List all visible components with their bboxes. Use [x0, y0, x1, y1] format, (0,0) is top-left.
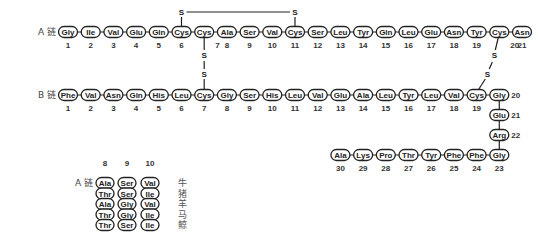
residue-label: Ser: [243, 91, 256, 100]
residue-number: 17: [427, 41, 436, 50]
b-chain-residue-10: His: [263, 90, 282, 101]
species-3-residue-10: Val: [141, 199, 159, 210]
residue-label: Asn: [446, 28, 461, 37]
residue-number: 11: [291, 104, 300, 113]
residue-number: 19: [472, 41, 481, 50]
a-chain-residue-15: Gln: [376, 27, 395, 38]
residue-number: 3: [111, 41, 116, 50]
species-2-residue-8: Thr: [96, 188, 114, 199]
residue-label: Cys: [197, 28, 212, 37]
residue-label: Glu: [129, 28, 142, 37]
a-chain-residue-9: Ser: [240, 27, 259, 38]
b-chain-residue-3: Asn: [104, 90, 123, 101]
residue-number: 18: [449, 104, 458, 113]
residue-number: 8: [103, 159, 108, 168]
species-1-residue-10: Val: [141, 178, 159, 189]
a-chain-residue-20: Cys: [490, 27, 509, 38]
residue-number: 5: [157, 41, 162, 50]
residue-label: Val: [108, 28, 120, 37]
b-chain-residue-19: Cys: [467, 90, 486, 101]
residue-number: 2: [88, 41, 93, 50]
b-chain-residue-12: Val: [308, 90, 327, 101]
residue-label: Arg: [492, 131, 506, 140]
residue-label: Leu: [424, 91, 438, 100]
b-chain-residue-14: Ala: [354, 90, 373, 101]
residue-number: 14: [359, 104, 368, 113]
residue-label: Ser: [121, 221, 134, 230]
residue-label: Glu: [425, 28, 438, 37]
species-table-label: A 链: [75, 177, 93, 188]
b-chain-residue-17: Leu: [422, 90, 441, 101]
residue-number: 6: [179, 104, 184, 113]
residues: GlyIleValGluGlnCysCysAlaSerValCysSerLeuT…: [59, 27, 532, 231]
residue-label: Pro: [379, 151, 392, 160]
a-chain-residue-19: Tyr: [467, 27, 486, 38]
residue-number: 4: [134, 104, 139, 113]
residue-label: Leu: [401, 28, 415, 37]
a-chain-residue-13: Leu: [331, 27, 350, 38]
residue-label: Phe: [61, 91, 76, 100]
species-5-residue-10: Ile: [141, 220, 159, 231]
residue-number: 3: [111, 104, 116, 113]
residue-number: 26: [427, 164, 436, 173]
species-4-residue-8: Thr: [96, 209, 114, 220]
residue-number: 21: [511, 111, 520, 120]
residue-number: 19: [472, 104, 481, 113]
residue-label: His: [266, 91, 279, 100]
residue-label: Ser: [121, 190, 134, 199]
residue-number: 7: [215, 41, 220, 50]
residue-label: Ile: [146, 221, 155, 230]
residue-label: Gly: [121, 200, 134, 209]
b-chain-residue-16: Tyr: [399, 90, 418, 101]
species-5-residue-8: Thr: [96, 220, 114, 231]
residue-number: 9: [125, 159, 130, 168]
residue-number: 13: [336, 41, 345, 50]
b-chain-residue-2: Val: [81, 90, 100, 101]
species-name: 猪: [178, 188, 187, 199]
sulfur-label: S: [202, 51, 208, 60]
residue-label: Ile: [146, 211, 155, 220]
sulfur-label: S: [292, 8, 298, 17]
species-4-residue-10: Ile: [141, 209, 159, 220]
residue-label: Gln: [379, 28, 392, 37]
residue-number: 18: [449, 41, 458, 50]
b-chain-residue-8: Gly: [217, 90, 236, 101]
residue-number: 22: [511, 131, 520, 140]
residue-label: Val: [144, 200, 156, 209]
residue-label: Cys: [197, 91, 212, 100]
residue-label: Leu: [333, 28, 347, 37]
species-name: 羊: [178, 198, 187, 209]
b-chain-residue-29: Lys: [354, 150, 373, 161]
a-chain-residue-12: Ser: [308, 27, 327, 38]
residue-label: Ala: [99, 200, 112, 209]
residue-label: Glu: [493, 111, 506, 120]
species-name: 牛: [178, 177, 187, 188]
b-chain-residue-13: Glu: [331, 90, 350, 101]
residue-number: 29: [359, 164, 368, 173]
b-chain-residue-28: Pro: [376, 150, 395, 161]
b-chain-residue-4: Gln: [127, 90, 146, 101]
species-1-residue-9: Ser: [118, 178, 136, 189]
a-chain-residue-14: Tyr: [354, 27, 373, 38]
residue-number: 8: [225, 41, 230, 50]
b-chain-residue-24: Phe: [467, 150, 486, 161]
b-chain-residue-15: Leu: [376, 90, 395, 101]
a-chain-residue-4: Glu: [127, 27, 146, 38]
residue-number: 5: [157, 104, 162, 113]
a-chain-label: A 链: [38, 26, 56, 37]
a-chain-residue-21: Asn: [513, 27, 532, 38]
residue-label: Gly: [62, 28, 75, 37]
residue-number: 16: [404, 41, 413, 50]
residue-number: 10: [146, 159, 155, 168]
residue-label: His: [153, 91, 166, 100]
species-3-residue-9: Gly: [118, 199, 136, 210]
residue-label: Thr: [402, 151, 415, 160]
residue-label: Thr: [99, 221, 112, 230]
b-chain-residue-30: Ala: [331, 150, 350, 161]
residue-number: 20: [511, 91, 520, 100]
residue-label: Cys: [492, 28, 507, 37]
residue-label: Lys: [356, 151, 370, 160]
residue-label: Ser: [243, 28, 256, 37]
b-chain-residue-25: Phe: [444, 150, 463, 161]
residue-label: Cys: [174, 28, 189, 37]
